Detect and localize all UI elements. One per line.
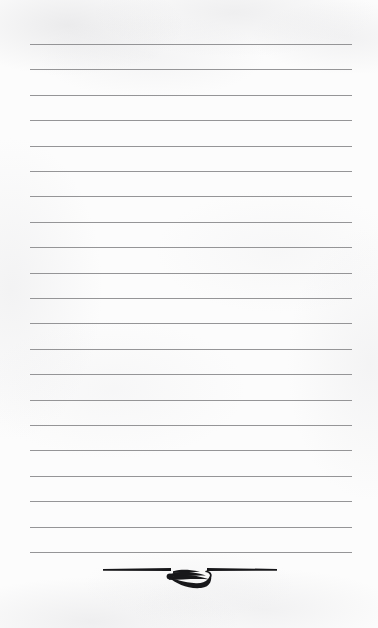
ruled-line <box>30 476 352 477</box>
ruled-line <box>30 374 352 375</box>
ornament-bar-left <box>103 568 171 571</box>
ruled-line <box>30 69 352 70</box>
ruled-line <box>30 501 352 502</box>
ruled-line <box>30 171 352 172</box>
ruled-line <box>30 120 352 121</box>
ruled-line <box>30 552 352 553</box>
ruled-line <box>30 298 352 299</box>
ruled-line <box>30 247 352 248</box>
ruled-line <box>30 450 352 451</box>
ornament-bar-right <box>207 568 277 571</box>
flourish-root-knot <box>167 573 174 579</box>
bottom-ornament <box>0 562 378 602</box>
ornament-flourish <box>167 570 212 588</box>
ruled-line <box>30 323 352 324</box>
ruled-line <box>30 196 352 197</box>
leaf-flourish-ornament <box>0 562 378 602</box>
ruled-line <box>30 44 352 45</box>
ruled-line <box>30 273 352 274</box>
ruled-line <box>30 425 352 426</box>
ruled-line <box>30 222 352 223</box>
ruled-line <box>30 527 352 528</box>
notepad-page <box>0 0 378 628</box>
ruled-lines-group <box>0 0 378 628</box>
ruled-line <box>30 95 352 96</box>
ruled-line <box>30 400 352 401</box>
ruled-line <box>30 349 352 350</box>
ruled-line <box>30 146 352 147</box>
